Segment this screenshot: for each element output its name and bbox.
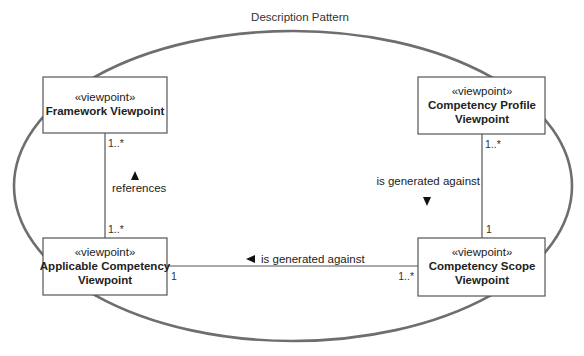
viewpoint-name-line1: Applicable Competency [40, 260, 171, 272]
multiplicity-profile-end: 1..* [485, 138, 501, 150]
stereotype-label: «viewpoint» [75, 246, 136, 258]
arrow-down-icon [423, 197, 431, 206]
viewpoint-name-line2: Viewpoint [455, 113, 509, 125]
multiplicity-scope-end-left: 1..* [398, 270, 414, 282]
multiplicity-applicable-end: 1..* [108, 223, 124, 235]
arrow-left-icon [246, 255, 255, 263]
association-label-references: references [112, 182, 167, 194]
association-label-applicable-scope: is generated against [261, 253, 365, 265]
arrow-up-icon [131, 171, 139, 180]
viewpoint-name: Framework Viewpoint [46, 105, 165, 117]
pattern-title: Description Pattern [251, 11, 349, 23]
stereotype-label: «viewpoint» [452, 246, 513, 258]
viewpoint-name-line2: Viewpoint [78, 274, 132, 286]
viewpoint-name-line2: Viewpoint [455, 274, 509, 286]
viewpoint-framework[interactable]: «viewpoint» Framework Viewpoint [43, 77, 167, 133]
viewpoint-competency-scope[interactable]: «viewpoint» Competency Scope Viewpoint [418, 238, 545, 296]
association-label-profile-scope: is generated against [376, 175, 480, 187]
multiplicity-scope-end-top: 1 [486, 223, 492, 235]
stereotype-label: «viewpoint» [452, 85, 513, 97]
stereotype-label: «viewpoint» [75, 91, 136, 103]
description-pattern-diagram: Description Pattern «viewpoint» Framewor… [0, 0, 584, 356]
viewpoint-name-line1: Competency Profile [428, 99, 536, 111]
viewpoint-name-line1: Competency Scope [429, 260, 536, 272]
viewpoint-competency-profile[interactable]: «viewpoint» Competency Profile Viewpoint [418, 77, 545, 134]
viewpoint-applicable-competency[interactable]: «viewpoint» Applicable Competency Viewpo… [40, 238, 171, 295]
multiplicity-applicable-end-right: 1 [171, 270, 177, 282]
multiplicity-framework-end: 1..* [108, 137, 124, 149]
